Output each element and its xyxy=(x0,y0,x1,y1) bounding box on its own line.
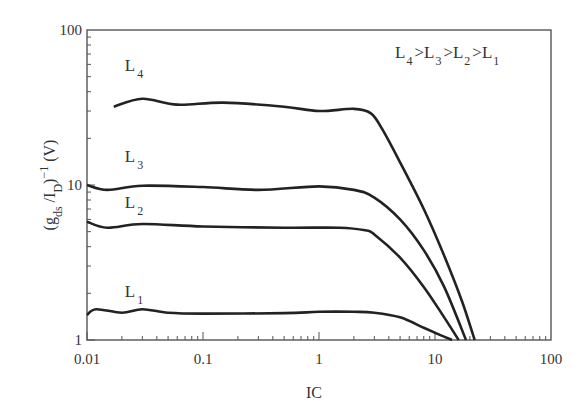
y-axis-title: (gds /ID)−1 (V) xyxy=(37,140,65,231)
curve-label-l1: L1 xyxy=(125,282,143,307)
curve-l2 xyxy=(87,222,459,340)
x-tick-label: 10 xyxy=(428,351,443,367)
x-axis-title: IC xyxy=(306,384,322,401)
y-tick-label: 10 xyxy=(67,177,82,193)
curve-label-l4: L4 xyxy=(125,56,143,81)
x-tick-label: 0.1 xyxy=(194,351,213,367)
curve-l3 xyxy=(87,185,466,340)
curves xyxy=(87,99,475,340)
labels: L4L3L2L1L4>L3>L2>L1 xyxy=(125,43,499,307)
x-tick-label: 0.01 xyxy=(74,351,100,367)
x-tick-label: 1 xyxy=(315,351,323,367)
ordering-annotation: L4>L3>L2>L1 xyxy=(395,43,499,68)
x-tick-label: 100 xyxy=(540,351,563,367)
curve-label-l3: L3 xyxy=(125,147,143,172)
y-tick-label: 1 xyxy=(75,332,83,348)
curve-label-l2: L2 xyxy=(125,193,143,218)
chart: 0.010.1110100110100IC(gds /ID)−1 (V) L4L… xyxy=(0,0,583,415)
curve-l4 xyxy=(114,99,475,340)
curve-l1 xyxy=(87,309,452,340)
plot-frame: 0.010.1110100110100IC(gds /ID)−1 (V) xyxy=(37,22,562,401)
y-tick-label: 100 xyxy=(60,22,83,38)
